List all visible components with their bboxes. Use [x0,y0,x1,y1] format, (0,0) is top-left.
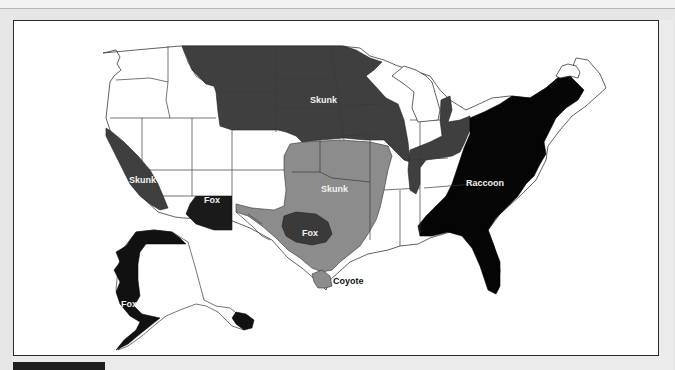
us-rabies-map: Skunk Skunk Skunk Fox Fox Fox Raccoon Co… [0,0,675,370]
label-fox-alaska: Fox [121,299,137,309]
label-coyote: Coyote [333,276,364,286]
label-fox-arizona: Fox [204,195,220,205]
label-skunk-south: Skunk [321,184,349,194]
label-fox-texas: Fox [302,228,318,238]
maine-outline [556,64,580,78]
label-skunk-california: Skunk [129,175,157,185]
label-raccoon: Raccoon [466,178,504,188]
label-skunk-north: Skunk [310,95,338,105]
